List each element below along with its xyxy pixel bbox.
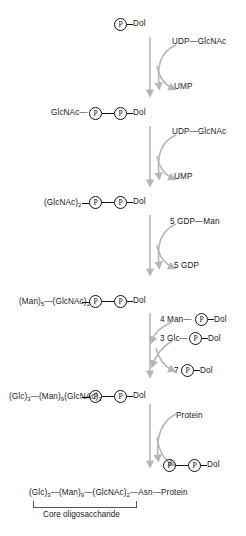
phosphate-circle: P (114, 18, 127, 31)
row2-dolichol-label: Dol (133, 109, 146, 117)
row2-prefix-label: GlcNAc— (51, 109, 88, 117)
product-label-ump-1: UMP (174, 83, 193, 91)
phosphate-circle: P (89, 390, 102, 403)
phosphate-circle: P (114, 390, 127, 403)
substrate-label-3-glc: 3 Glc— (160, 335, 188, 343)
row4-dolichol-label: Dol (133, 297, 146, 305)
row6-glc-subscript: 3 (47, 492, 50, 498)
bond (82, 203, 89, 204)
core-oligosaccharide-caption: Core oligosaccharide (43, 510, 120, 519)
final-product-label: (Glc)3—(Man)9—(GlcNAc)2—Asn—Protein (29, 489, 188, 497)
bond (82, 302, 89, 303)
row6-man-text: —(Man) (51, 488, 81, 497)
phosphate-circle: P (181, 364, 194, 377)
product-ppdol-dolichol-label: Dol (207, 461, 220, 469)
phosphate-circle: P (195, 313, 208, 326)
core-oligosaccharide-bracket (33, 501, 137, 508)
bond (102, 113, 114, 114)
bond (176, 465, 188, 466)
row3-dolichol-label: Dol (133, 198, 146, 206)
row4-prefix-label: (Man)5—(GlcNAc)2 (19, 298, 90, 306)
row5-man-subscript: 9 (61, 396, 64, 402)
row3-prefix-text: (GlcNAc) (44, 198, 78, 207)
substrate-label-udp-glcnac-1: UDP—GlcNAc (172, 38, 226, 46)
arrow-substrate-in-4b (153, 341, 172, 364)
phosphate-circle: P (89, 295, 102, 308)
substrate-label-gdp-man: 5 GDP—Man (170, 218, 220, 226)
row5-glc-text: (Glc) (9, 392, 27, 401)
row6-glcnac-text: —(GlcNAc) (84, 488, 126, 497)
product-label-ump-2: UMP (174, 173, 193, 181)
row5-man-text: —(Man) (31, 392, 61, 401)
row5-dolichol-label: Dol (133, 392, 146, 400)
row5-glc-subscript: 3 (27, 396, 30, 402)
product-label-7: 7 (174, 367, 179, 375)
row6-glcnac-subscript: 2 (127, 492, 130, 498)
phosphate-circle: P (89, 196, 102, 209)
phosphate-circle: P (114, 295, 127, 308)
row4-glcnac-text: —(GlcNAc) (44, 297, 86, 306)
row6-man-subscript: 9 (81, 492, 84, 498)
row3-prefix-subscript: 2 (78, 202, 81, 208)
bond (102, 301, 114, 302)
substrate-label-udp-glcnac-2: UDP—GlcNAc (172, 128, 226, 136)
substrate-label-protein: Protein (176, 412, 203, 420)
substrate-4man-dolichol-label: Dol (214, 316, 227, 324)
arrow-substrate-in-2 (158, 135, 176, 176)
row4-man-subscript: 5 (41, 301, 44, 307)
row6-asn-protein-text: —Asn—Protein (130, 488, 188, 497)
phosphate-circle: P (89, 107, 102, 120)
arrow-product-out-4 (156, 348, 172, 370)
arrow-substrate-in-1 (158, 45, 176, 86)
substrate-3glc-dolichol-label: Dol (208, 335, 221, 343)
arrow-layer (0, 0, 246, 536)
row3-prefix-label: (GlcNAc)2 (44, 199, 81, 207)
substrate-label-4-man: 4 Man— (160, 316, 192, 324)
arrow-substrate-in-3 (158, 224, 176, 265)
phosphate-circle: P (189, 332, 202, 345)
bond (82, 397, 89, 398)
bond (102, 396, 114, 397)
row1-dolichol-label: Dol (133, 20, 146, 28)
phosphate-circle: P (114, 196, 127, 209)
product-label-gdp: 5 GDP (174, 262, 199, 270)
phosphate-circle: P (188, 459, 201, 472)
bond (102, 202, 114, 203)
row6-glc-text: (Glc) (29, 488, 47, 497)
phosphate-circle: P (114, 107, 127, 120)
product-7pdol-dolichol-label: Dol (200, 367, 213, 375)
row4-man-text: (Man) (19, 297, 41, 306)
phosphate-circle: P (163, 459, 176, 472)
pathway-diagram: P Dol UDP—GlcNAc UMP GlcNAc— P P Dol UDP… (0, 0, 246, 536)
